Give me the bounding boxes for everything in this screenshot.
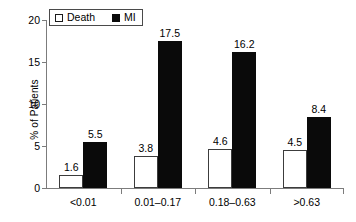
y-tick-label: 0 (18, 183, 40, 193)
x-tick-label: 0.18–0.63 (195, 196, 270, 208)
x-tick-label: 0.01–0.17 (121, 196, 196, 208)
bar-mi-3 (307, 117, 331, 188)
x-tick-label: >0.63 (270, 196, 345, 208)
x-tick-mark (343, 189, 344, 194)
filled-square-swatch (112, 14, 120, 22)
y-axis-line (46, 20, 47, 189)
bar-death-3 (283, 150, 307, 188)
x-axis-tick-labels: <0.010.01–0.170.18–0.63>0.63 (46, 196, 344, 212)
bar-value-label: 8.4 (301, 104, 337, 115)
bar-value-label: 5.5 (77, 129, 113, 140)
bar-value-label: 16.2 (226, 39, 262, 50)
y-axis-tick-labels: 05101520 (14, 0, 40, 222)
bar-death-2 (208, 149, 232, 188)
y-tick-label: 15 (18, 57, 40, 67)
bar-mi-0 (83, 142, 107, 188)
x-tick-label: <0.01 (46, 196, 121, 208)
legend-entry-death: Death (55, 12, 95, 23)
y-tick-mark (42, 146, 46, 147)
bar-mi-1 (158, 41, 182, 188)
legend-entry-mi: MI (112, 12, 136, 23)
plot-area: 1.65.53.817.54.616.24.58.4 (46, 20, 344, 188)
bar-value-label: 17.5 (152, 28, 188, 39)
bar-death-1 (134, 156, 158, 188)
y-tick-mark (42, 188, 46, 189)
chart-legend: DeathMI (49, 9, 143, 26)
bar-chart: % of Patients 05101520 1.65.53.817.54.61… (0, 0, 356, 222)
legend-label: Death (67, 12, 95, 23)
x-tick-mark (270, 189, 271, 194)
open-square-swatch (55, 14, 63, 22)
y-tick-label: 20 (18, 15, 40, 25)
bar-death-0 (59, 175, 83, 188)
y-tick-mark (42, 20, 46, 21)
x-tick-mark (121, 189, 122, 194)
y-tick-label: 5 (18, 141, 40, 151)
y-tick-mark (42, 104, 46, 105)
y-tick-mark (42, 62, 46, 63)
y-tick-label: 10 (18, 99, 40, 109)
bar-mi-2 (232, 52, 256, 188)
x-tick-mark (195, 189, 196, 194)
legend-label: MI (124, 12, 136, 23)
